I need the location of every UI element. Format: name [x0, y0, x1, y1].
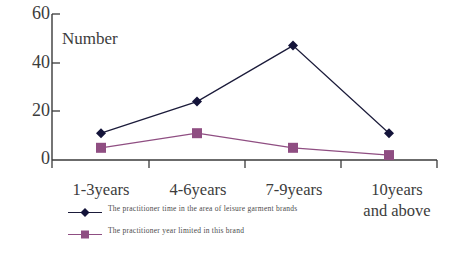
series-line-practitioner-year: [101, 133, 389, 155]
data-point-marker: [192, 97, 202, 107]
legend-item-practitioner-time: The practitioner time in the area of lei…: [68, 203, 368, 218]
legend: The practitioner time in the area of lei…: [68, 203, 368, 247]
legend-marker-diamond-icon: [68, 207, 102, 218]
legend-marker-square-icon: [68, 229, 102, 240]
y-axis-tick-label-0: 0: [16, 149, 50, 167]
legend-label-practitioner-time: The practitioner time in the area of lei…: [108, 203, 368, 214]
legend-label-practitioner-year: The practitioner year limited in this br…: [108, 225, 368, 236]
series-markers-practitioner-time: [96, 41, 394, 139]
data-point-marker: [96, 143, 106, 153]
y-axis-caption: Number: [62, 29, 118, 48]
x-axis-tick-label-7-9years: 7-9years: [245, 179, 343, 200]
x-axis-tick-label-1-3years: 1-3years: [52, 179, 150, 200]
y-axis-tick-label-60: 60: [16, 4, 50, 22]
data-point-marker: [288, 143, 298, 153]
line-chart: 60 40 20 0 Number 1-3years 4-6years 7-9y…: [0, 0, 461, 259]
series-markers-practitioner-year: [96, 128, 394, 160]
y-axis-tick-label-40: 40: [16, 53, 50, 71]
data-point-marker: [192, 128, 202, 138]
series-line-practitioner-time: [101, 46, 389, 134]
data-point-marker: [384, 150, 394, 160]
x-axis-tick-label-4-6years: 4-6years: [149, 179, 247, 200]
data-point-marker: [96, 128, 106, 138]
y-axis-tick-label-20: 20: [16, 101, 50, 119]
legend-item-practitioner-year: The practitioner year limited in this br…: [68, 225, 368, 240]
